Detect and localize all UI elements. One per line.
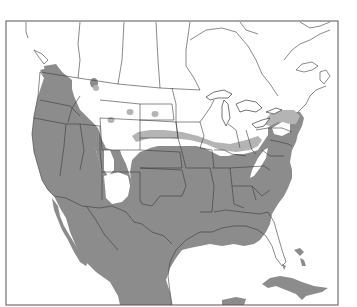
range-map [0,0,357,307]
range-dark-area [32,64,328,305]
